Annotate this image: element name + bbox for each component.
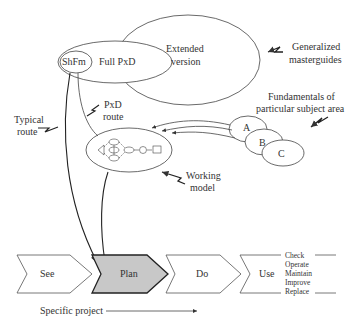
working-model-pointer-icon xyxy=(162,172,185,184)
working-model-label-1: Working xyxy=(186,170,221,182)
fundamentals-pointer-icon xyxy=(311,117,328,127)
use-activity-improve: Improve xyxy=(285,278,310,287)
subject-area-a-label: A xyxy=(243,122,250,134)
step-see-shape xyxy=(17,255,92,293)
typical-route-label-1: Typical xyxy=(14,114,44,126)
use-activity-maintain: Maintain xyxy=(285,269,312,278)
fundamentals-label-1: Fundamentals of xyxy=(268,91,335,103)
full-pxd-label: Full PxD xyxy=(99,56,135,68)
typical-route-arrow xyxy=(65,73,97,262)
pxd-route-line xyxy=(78,73,98,136)
extended-label-1: Extended xyxy=(166,43,204,55)
step-do-label: Do xyxy=(196,268,208,280)
specific-project-label: Specific project xyxy=(40,305,103,317)
pxd-route-label-2: route xyxy=(103,111,124,123)
shfm-label: ShFm xyxy=(62,56,86,68)
pxd-route-label-1: PxD xyxy=(104,99,122,111)
subject-area-c-label: C xyxy=(278,148,285,160)
fundamentals-label-2: particular subject area xyxy=(256,103,344,115)
working-model-label-2: model xyxy=(190,182,215,194)
extended-label-2: version xyxy=(171,56,200,68)
step-use-label: Use xyxy=(259,268,275,280)
use-activity-check: Check xyxy=(285,251,304,260)
generalized-label-1: Generalized xyxy=(292,41,340,53)
step-see-label: See xyxy=(40,268,54,280)
working-model-to-plan-arrow xyxy=(102,172,108,262)
generalized-pointer-icon xyxy=(268,47,283,52)
use-activity-replace: Replace xyxy=(285,287,309,296)
typical-route-label-2: route xyxy=(17,126,38,138)
subject-area-b-label: B xyxy=(259,137,266,149)
step-plan-label: Plan xyxy=(120,268,138,280)
use-activity-operate: Operate xyxy=(285,260,309,269)
generalized-label-2: masterguides xyxy=(289,54,342,66)
